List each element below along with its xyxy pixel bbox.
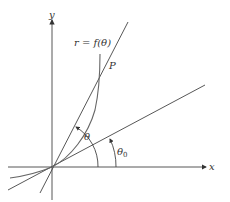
theta0-label: θ0 [117, 146, 128, 159]
y-axis-label: y [48, 9, 55, 20]
polar-diagram: y x r = f(θ) P θ θ0 [0, 0, 230, 202]
theta0-subscript: 0 [123, 151, 127, 159]
tangent-line-theta0 [8, 85, 205, 190]
theta0-arc [110, 139, 116, 167]
polar-curve [10, 54, 100, 178]
x-axis-label: x [209, 161, 215, 172]
curve-label: r = f(θ) [74, 37, 111, 48]
point-label: P [108, 60, 116, 71]
theta-label: θ [84, 131, 90, 142]
